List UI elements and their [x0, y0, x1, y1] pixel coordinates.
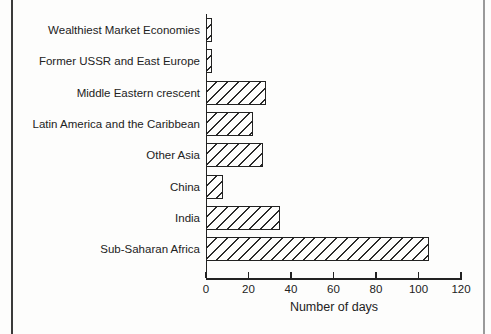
x-tick-label: 100	[399, 283, 439, 295]
bar	[206, 81, 266, 105]
x-tick-mark	[375, 272, 377, 278]
bar	[206, 237, 429, 261]
right-frame-line	[483, 0, 485, 334]
x-axis-line	[206, 278, 462, 280]
x-tick-label: 20	[229, 283, 269, 295]
bar	[206, 175, 223, 199]
x-tick-label: 60	[314, 283, 354, 295]
category-label: Latin America and the Caribbean	[10, 116, 200, 132]
x-tick-mark	[290, 272, 292, 278]
category-label: Other Asia	[10, 147, 200, 163]
x-tick-mark	[205, 272, 207, 278]
category-label: Sub-Saharan Africa	[10, 241, 200, 257]
bar	[206, 143, 263, 167]
category-label: Middle Eastern crescent	[10, 85, 200, 101]
x-tick-label: 0	[186, 283, 226, 295]
left-frame-line	[11, 0, 13, 334]
bar	[206, 206, 280, 230]
x-axis-title: Number of days	[206, 300, 462, 314]
bar	[206, 112, 253, 136]
x-tick-label: 40	[271, 283, 311, 295]
x-tick-mark	[333, 272, 335, 278]
category-label: Former USSR and East Europe	[10, 53, 200, 69]
x-tick-label: 120	[441, 283, 481, 295]
category-label: India	[10, 210, 200, 226]
y-axis-line	[206, 14, 208, 279]
bar-chart-figure: Wealthiest Market EconomiesFormer USSR a…	[0, 0, 491, 334]
x-tick-mark	[248, 272, 250, 278]
x-tick-label: 80	[356, 283, 396, 295]
x-tick-mark	[460, 272, 462, 278]
x-tick-mark	[418, 272, 420, 278]
category-label: Wealthiest Market Economies	[10, 22, 200, 38]
category-label: China	[10, 179, 200, 195]
